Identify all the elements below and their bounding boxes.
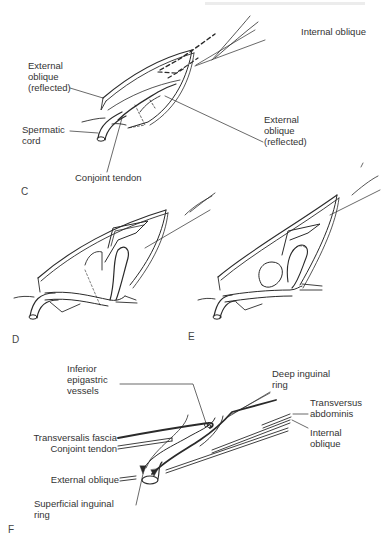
panel-letter-f: F <box>8 524 14 535</box>
label-internal-oblique-f-line2: oblique <box>310 438 341 449</box>
label-external-oblique-right-line3: (reflected) <box>264 136 307 147</box>
panel-f-drawing <box>118 384 308 505</box>
label-deep-inguinal-ring-line1: Deep inguinal <box>272 368 330 379</box>
label-internal-oblique-c: Internal oblique <box>301 26 366 37</box>
label-transversalis-fascia: Transversalis fascia <box>27 432 117 443</box>
panel-letter-e: E <box>188 331 195 342</box>
label-superficial-inguinal-ring-line2: ring <box>34 509 50 520</box>
label-deep-inguinal-ring-line2: ring <box>272 379 288 390</box>
panel-letter-c: C <box>21 186 28 197</box>
panel-d-drawing <box>14 193 215 319</box>
panel-c-drawing <box>70 16 363 172</box>
label-internal-oblique-f-line1: Internal <box>310 427 342 438</box>
label-external-oblique-left-line3: (reflected) <box>28 82 71 93</box>
label-inferior-epigastric-line3: vessels <box>67 385 99 396</box>
label-external-oblique-left-line1: External <box>28 60 63 71</box>
label-external-oblique-right-line1: External <box>264 114 299 125</box>
label-transversus-abdominis-line1: Transversus <box>310 397 362 408</box>
label-spermatic-cord-line2: cord <box>22 135 40 146</box>
label-spermatic-cord-line1: Spermatic <box>22 124 65 135</box>
panel-letter-d: D <box>12 334 19 345</box>
label-inferior-epigastric-line2: epigastric <box>67 374 108 385</box>
label-inferior-epigastric-line1: Inferior <box>67 363 97 374</box>
label-transversus-abdominis-line2: abdominis <box>310 408 353 419</box>
label-superficial-inguinal-ring-line1: Superficial inguinal <box>34 498 114 509</box>
label-external-oblique-right-line2: oblique <box>264 125 295 136</box>
label-external-oblique-left-line2: oblique <box>28 71 59 82</box>
label-conjoint-tendon-c: Conjoint tendon <box>75 172 142 183</box>
label-conjoint-tendon-f: Conjoint tendon <box>27 443 117 454</box>
panel-e-drawing <box>198 176 380 319</box>
label-external-oblique-f: External oblique <box>27 474 119 485</box>
figure-page: Internal oblique External oblique (refle… <box>0 0 392 546</box>
